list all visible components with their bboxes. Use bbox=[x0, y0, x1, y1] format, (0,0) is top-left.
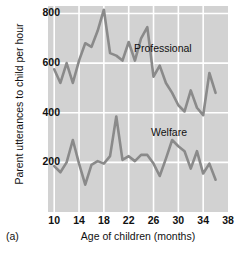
y-axis-title: Parent utterances to child per hour bbox=[13, 4, 29, 204]
x-axis-tick-label: 14 bbox=[67, 214, 91, 226]
y-axis-tick-label: 800 bbox=[30, 6, 60, 18]
figure-caption: (a) bbox=[6, 230, 19, 242]
x-axis-tick-label: 26 bbox=[142, 214, 166, 226]
y-axis-tick-label: 400 bbox=[30, 106, 60, 118]
y-axis-tick-label: 200 bbox=[30, 155, 60, 167]
x-axis-tick-label: 22 bbox=[117, 214, 141, 226]
x-axis-tick-label: 38 bbox=[216, 214, 238, 226]
y-axis-tick-label: 600 bbox=[30, 56, 60, 68]
x-axis-tick-label: 10 bbox=[42, 214, 66, 226]
x-axis-title: Age of children (months) bbox=[40, 230, 236, 242]
x-axis-tick-label: 30 bbox=[166, 214, 190, 226]
x-axis-tick-label: 18 bbox=[92, 214, 116, 226]
series-label-professional: Professional bbox=[134, 42, 192, 54]
plot-area: Professional Welfare bbox=[48, 6, 228, 212]
series-label-welfare: Welfare bbox=[151, 126, 187, 138]
figure-panel-a: Parent utterances to child per hour Prof… bbox=[0, 0, 238, 254]
chart-svg bbox=[48, 6, 228, 212]
x-axis-tick-label: 34 bbox=[191, 214, 215, 226]
x-axis-tick-labels: 1014182226303438 bbox=[48, 214, 228, 228]
